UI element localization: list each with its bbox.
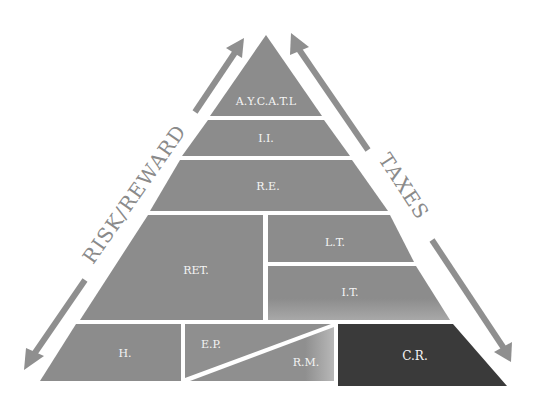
label-re: R.E. — [256, 180, 279, 193]
label-ii: I.I. — [258, 132, 274, 145]
label-ep: E.P. — [201, 338, 221, 351]
label-ret: RET. — [183, 264, 209, 277]
label-aycatl: A.Y.C.A.T.L — [235, 95, 297, 108]
pyramid-diagram: RISK/REWARD TAXES A.Y.C.A.T.L I.I. R.E. … — [0, 0, 539, 408]
label-lt: L.T. — [325, 236, 345, 249]
layer-h — [40, 324, 181, 381]
taxes-label: TAXES — [374, 149, 435, 224]
label-h: H. — [118, 347, 131, 360]
label-cr: C.R. — [402, 349, 427, 363]
layer-it — [268, 266, 450, 320]
label-it: I.T. — [341, 286, 358, 299]
label-rm: R.M. — [293, 356, 320, 369]
